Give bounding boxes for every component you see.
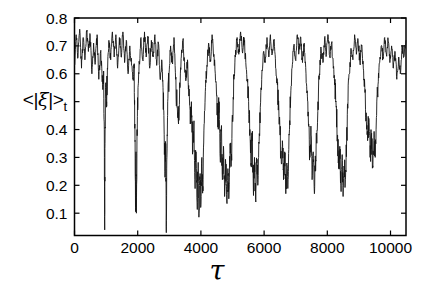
x-tick-label: 0 bbox=[70, 239, 79, 256]
y-axis-label-close: |> bbox=[48, 89, 63, 110]
y-tick-label: 0.7 bbox=[46, 37, 68, 54]
x-tick-label: 2000 bbox=[120, 239, 155, 256]
y-tick-label: 0.4 bbox=[46, 121, 68, 138]
x-tick-label: 8000 bbox=[310, 239, 345, 256]
y-tick-label: 0.2 bbox=[46, 177, 68, 194]
y-tick-label: 0.6 bbox=[46, 65, 68, 82]
y-tick-label: 0.1 bbox=[46, 205, 68, 222]
y-axis-label-open: <| bbox=[23, 89, 38, 110]
x-axis-label: τ bbox=[195, 257, 239, 284]
x-tick-label: 6000 bbox=[247, 239, 282, 256]
x-tick-label: 10000 bbox=[369, 239, 412, 256]
y-tick-label: 0.3 bbox=[46, 149, 68, 166]
y-tick-label: 0.8 bbox=[46, 10, 68, 27]
plot-canvas: 02000400060008000100000.10.20.30.40.60.7… bbox=[0, 0, 429, 296]
signal-path bbox=[75, 29, 407, 233]
y-axis-label-subscript: t bbox=[63, 99, 67, 114]
y-axis-label: <|ξ|>t bbox=[0, 88, 67, 114]
x-tick-label: 4000 bbox=[184, 239, 219, 256]
chart-figure: 02000400060008000100000.10.20.30.40.60.7… bbox=[0, 0, 429, 296]
xi-symbol: ξ bbox=[38, 88, 48, 110]
